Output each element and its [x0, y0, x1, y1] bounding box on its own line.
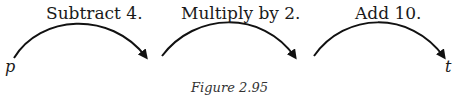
step-2-label: Multiply by 2.: [181, 3, 301, 23]
end-variable: t: [445, 57, 451, 76]
arrow-2: [162, 22, 295, 57]
figure-caption: Figure 2.95: [0, 80, 459, 95]
arrow-3: [314, 22, 444, 57]
figure-canvas: Subtract 4. Multiply by 2. Add 10. p t F…: [0, 0, 459, 101]
step-1-label: Subtract 4.: [46, 3, 143, 23]
start-variable: p: [5, 57, 15, 76]
arrow-1: [14, 24, 146, 58]
step-3-label: Add 10.: [355, 3, 421, 23]
